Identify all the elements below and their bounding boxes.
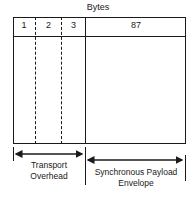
transport-overhead-label: Transport Overhead: [13, 160, 85, 182]
spe-label: Synchronous Payload Envelope: [86, 167, 186, 189]
label-line: Envelope: [86, 178, 186, 189]
label-line: Synchronous Payload: [86, 167, 186, 178]
label-line: Overhead: [13, 171, 85, 182]
label-line: Transport: [13, 160, 85, 171]
